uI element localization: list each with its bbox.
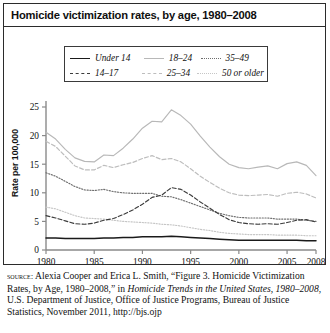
series-line xyxy=(46,110,316,176)
legend-label: 35–49 xyxy=(226,53,249,63)
legend-label: Under 14 xyxy=(95,53,130,63)
svg-text:1980: 1980 xyxy=(37,257,56,265)
series-line xyxy=(46,173,316,222)
svg-text:0: 0 xyxy=(34,245,39,255)
plot-area: Rate per 100,000 05101520251980198519901… xyxy=(4,86,325,264)
legend-item-25-34: 25–34 xyxy=(142,65,197,80)
figure-title-bar: Homicide victimization rates, by age, 19… xyxy=(4,4,325,26)
legend-line-icon xyxy=(201,54,221,62)
legend-item-18-24: 18–24 xyxy=(144,50,201,65)
series-line xyxy=(46,207,316,236)
legend-label: 18–24 xyxy=(169,53,192,63)
legend-label: 14–17 xyxy=(95,68,118,78)
svg-text:5: 5 xyxy=(34,217,39,227)
legend-line-icon xyxy=(144,54,164,62)
source-note: source: Alexia Cooper and Erica L. Smith… xyxy=(7,270,323,317)
svg-text:1995: 1995 xyxy=(181,257,200,265)
legend-line-icon xyxy=(197,69,217,77)
legend-item-35-49: 35–49 xyxy=(201,50,263,65)
source-italic-title: Homicide Trends in the United States, 19… xyxy=(127,283,318,294)
svg-text:1990: 1990 xyxy=(133,257,152,265)
legend-line-icon xyxy=(142,69,162,77)
title-divider xyxy=(4,26,325,27)
svg-text:10: 10 xyxy=(30,188,40,198)
page-title: Homicide victimization rates, by age, 19… xyxy=(11,9,257,21)
svg-text:2008: 2008 xyxy=(307,257,325,265)
legend-item-14-17: 14–17 xyxy=(70,65,142,80)
legend-item-50-or-older: 50 or older xyxy=(197,65,263,80)
chart-legend: Under 14 18–24 35–49 14–17 25–34 50 xyxy=(64,46,268,82)
svg-text:2005: 2005 xyxy=(278,257,297,265)
figure-container: Homicide victimization rates, by age, 19… xyxy=(0,0,330,333)
svg-text:20: 20 xyxy=(30,131,40,141)
legend-label: 50 or older xyxy=(222,68,264,78)
svg-text:2000: 2000 xyxy=(229,257,248,265)
legend-label: 25–34 xyxy=(167,68,190,78)
series-line xyxy=(46,188,316,225)
svg-text:1985: 1985 xyxy=(85,257,104,265)
svg-text:15: 15 xyxy=(30,160,40,170)
line-chart: 05101520251980198519901995200020052008 xyxy=(4,86,325,264)
legend-item-under-14: Under 14 xyxy=(70,50,144,65)
legend-line-icon xyxy=(70,54,90,62)
legend-row-2: 14–17 25–34 50 or older xyxy=(70,65,263,80)
source-label: source: xyxy=(7,271,33,281)
legend-line-icon xyxy=(70,69,90,77)
series-line xyxy=(46,236,316,241)
svg-text:25: 25 xyxy=(30,102,40,112)
legend-row-1: Under 14 18–24 35–49 xyxy=(70,50,263,65)
